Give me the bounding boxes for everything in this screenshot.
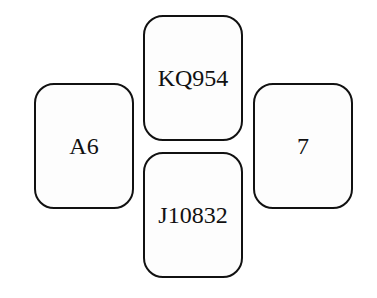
- east-cards: 7: [297, 133, 309, 160]
- north-cards: KQ954: [158, 65, 229, 92]
- west-cards: A6: [69, 133, 98, 160]
- east-hand: 7: [253, 83, 353, 209]
- south-hand: J10832: [143, 152, 243, 278]
- south-cards: J10832: [158, 202, 227, 229]
- west-hand: A6: [34, 83, 134, 209]
- north-hand: KQ954: [143, 15, 243, 141]
